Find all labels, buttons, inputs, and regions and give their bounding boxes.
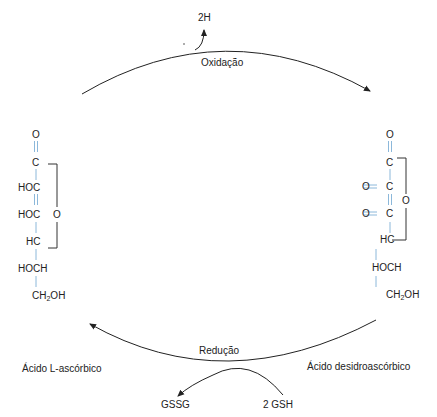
reduction-label: Redução bbox=[199, 345, 239, 357]
right-compound-name: Ácido desidroascórbico bbox=[307, 361, 410, 373]
left-atom-c5: HOCH bbox=[18, 263, 47, 275]
right-atom-c3: C bbox=[386, 208, 393, 220]
left-ring-bracket bbox=[48, 164, 57, 248]
right-atom-o-top: O bbox=[386, 129, 394, 141]
right-atom-c3-oxygen: O bbox=[362, 208, 370, 220]
dot-mark bbox=[183, 43, 185, 45]
left-compound-name: Ácido L-ascórbico bbox=[22, 363, 101, 375]
gsh-label: 2 GSH bbox=[263, 399, 293, 411]
right-atom-c5: HOCH bbox=[372, 262, 401, 274]
left-atom-o-top: O bbox=[32, 129, 40, 141]
glutathione-arrow bbox=[178, 368, 283, 396]
left-atom-c1: C bbox=[32, 157, 39, 169]
right-atom-c6: CH2OH bbox=[386, 289, 419, 301]
hydrogen-byproduct-label: 2H bbox=[198, 12, 211, 24]
oxidation-label: Oxidação bbox=[201, 57, 243, 69]
hydrogen-release-arrow bbox=[195, 30, 204, 50]
left-atom-c4: HC bbox=[26, 236, 40, 248]
right-atom-c1: C bbox=[386, 157, 393, 169]
left-ring-oxygen: O bbox=[53, 209, 61, 221]
gssg-label: GSSG bbox=[161, 399, 190, 411]
right-atom-c2-oxygen: O bbox=[362, 181, 370, 193]
right-ring-oxygen: O bbox=[402, 195, 410, 207]
right-atom-c4: HC bbox=[380, 234, 394, 246]
left-atom-c2: HOC bbox=[18, 182, 40, 194]
left-atom-c6: CH2OH bbox=[32, 290, 65, 302]
left-atom-c3: HOC bbox=[18, 209, 40, 221]
right-atom-c2: C bbox=[386, 181, 393, 193]
